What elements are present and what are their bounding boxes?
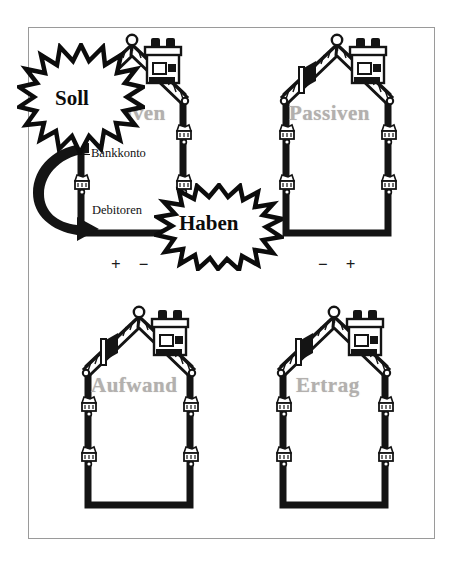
signs-aktiven: + − [111,256,148,273]
sign-plus-aktiven: + [111,256,121,273]
house-ertrag[interactable]: Ertrag [269,305,399,510]
burst-label-soll: Soll [55,86,89,111]
figure-frame: Aktiven Bankkonto Debitoren Soll Haben +… [28,27,435,539]
chimney-icon [350,38,386,83]
sign-minus-passiven: − [318,256,328,273]
house-icon [74,305,204,510]
house-passiven[interactable]: Passiven [272,33,402,238]
house-label-passiven: Passiven [289,101,370,126]
chimney-icon [145,38,181,83]
house-label-aufwand: Aufwand [91,373,177,398]
house-label-ertrag: Ertrag [296,373,360,398]
house-icon [269,305,399,510]
chimney-icon [347,310,383,355]
house-icon [272,33,402,238]
house-aufwand[interactable]: Aufwand [74,305,204,510]
account-label-debitoren: Debitoren [92,203,142,218]
figure-canvas: Aktiven Bankkonto Debitoren Soll Haben +… [0,0,464,567]
sign-plus-passiven: + [346,256,356,273]
burst-label-haben: Haben [179,211,239,236]
sign-minus-aktiven: − [139,256,149,273]
chimney-icon [152,310,188,355]
signs-passiven: − + [318,256,355,273]
